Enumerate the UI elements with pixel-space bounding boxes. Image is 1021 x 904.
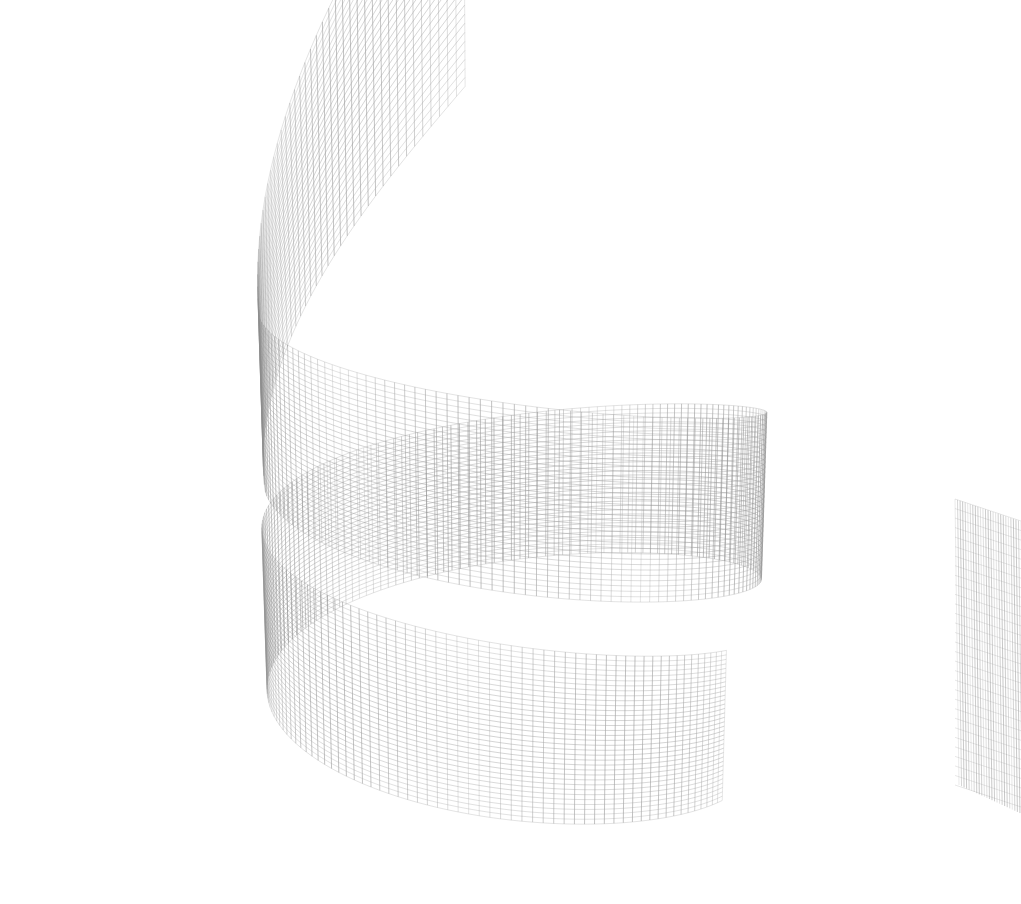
wireframe-figure <box>0 0 1021 904</box>
wireframe-surface-plot <box>0 0 1021 904</box>
